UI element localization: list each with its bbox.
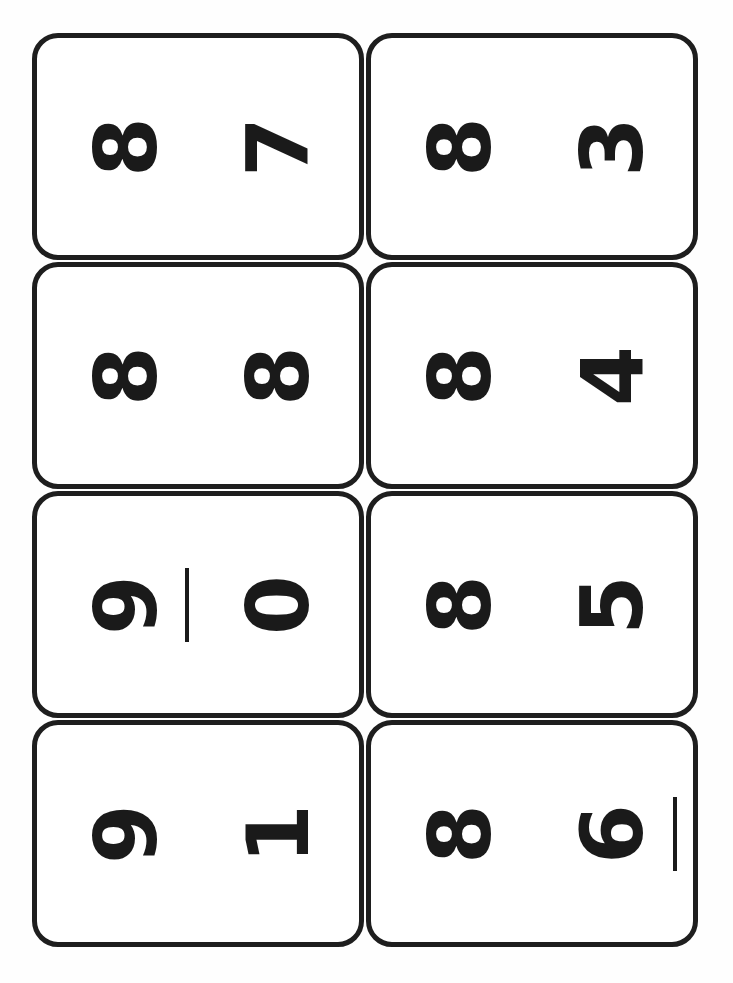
card-face: 8 5 [371, 496, 693, 713]
digit-slot-first: 8 [417, 104, 503, 190]
digit-slot-second: 4 [569, 333, 655, 419]
flashcard-sheet: 8 7 8 3 8 [0, 0, 733, 983]
flashcard[interactable]: 8 4 [366, 262, 698, 489]
digit-first: 8 [417, 575, 503, 635]
digit-slot-second: 0 [235, 562, 321, 648]
digit-slot-second: 1 [235, 791, 321, 877]
digit-second: 1 [235, 804, 321, 864]
flashcard[interactable]: 8 5 [366, 491, 698, 718]
digit-slot-first: 8 [417, 333, 503, 419]
flashcard[interactable]: 8 3 [366, 33, 698, 260]
digit-second: 6 [569, 804, 655, 864]
flashcard[interactable]: 8 7 [32, 33, 364, 260]
digit-first: 9 [83, 575, 169, 635]
digit-first: 8 [83, 117, 169, 177]
card-face: 9 0 [37, 496, 359, 713]
digit-second: 0 [235, 575, 321, 635]
digit-first: 8 [417, 117, 503, 177]
digit-second: 5 [569, 575, 655, 635]
card-face: 8 7 [37, 38, 359, 255]
digit-first: 8 [417, 346, 503, 406]
digit-slot-second: 6 [569, 791, 655, 877]
flashcard-grid: 8 7 8 3 8 [32, 33, 698, 950]
digit-slot-first: 9 [83, 562, 169, 648]
card-face: 9 1 [37, 725, 359, 942]
card-face: 8 8 [37, 267, 359, 484]
digit-first: 8 [83, 346, 169, 406]
flashcard[interactable]: 9 1 [32, 720, 364, 947]
flashcard[interactable]: 9 0 [32, 491, 364, 718]
digit-slot-second: 7 [235, 104, 321, 190]
card-face: 8 3 [371, 38, 693, 255]
card-face: 8 4 [371, 267, 693, 484]
flashcard[interactable]: 8 6 [366, 720, 698, 947]
digit-second: 3 [569, 117, 655, 177]
digit-slot-second: 8 [235, 333, 321, 419]
digit-underline-icon [673, 797, 677, 871]
digit-second: 4 [569, 346, 655, 406]
digit-slot-first: 9 [83, 791, 169, 877]
digit-first: 8 [417, 804, 503, 864]
digit-second: 7 [235, 117, 321, 177]
flashcard[interactable]: 8 8 [32, 262, 364, 489]
digit-slot-first: 8 [417, 791, 503, 877]
digit-second: 8 [235, 346, 321, 406]
digit-slot-first: 8 [83, 104, 169, 190]
digit-slot-first: 8 [417, 562, 503, 648]
digit-slot-second: 5 [569, 562, 655, 648]
card-face: 8 6 [371, 725, 693, 942]
digit-slot-second: 3 [569, 104, 655, 190]
digit-slot-first: 8 [83, 333, 169, 419]
digit-first: 9 [83, 804, 169, 864]
digit-underline-icon [185, 568, 189, 642]
